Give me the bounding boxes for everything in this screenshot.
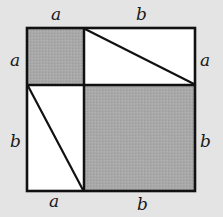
label-bottom-left: a <box>49 191 59 211</box>
square-a <box>27 28 84 85</box>
label-left-top: a <box>10 50 20 70</box>
label-bottom-right: b <box>137 194 148 214</box>
diagram-canvas: a b a b a b a b <box>0 0 223 217</box>
label-top-right: b <box>136 4 147 24</box>
label-top-left: a <box>51 4 61 24</box>
square-b <box>84 85 195 191</box>
label-right-top: a <box>200 50 210 70</box>
label-right-bottom: b <box>200 131 211 151</box>
label-left-bottom: b <box>10 131 21 151</box>
